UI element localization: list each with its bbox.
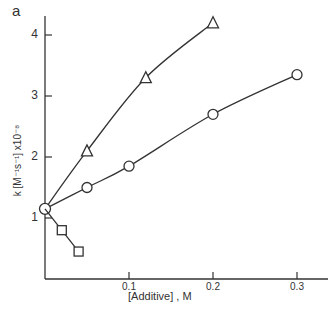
circle-marker — [124, 161, 134, 171]
series-triangles — [45, 17, 219, 209]
series-line — [45, 23, 213, 209]
circle-marker — [292, 70, 302, 80]
chart-canvas — [0, 0, 336, 316]
x-tick-label: 0.3 — [282, 281, 312, 292]
circle-marker — [82, 183, 92, 193]
panel-label: a — [12, 2, 20, 19]
y-axis-label: k [M⁻¹s⁻¹] x10⁻⁸ — [12, 116, 23, 206]
series-squares — [45, 209, 83, 256]
series-circles — [40, 70, 303, 215]
x-axis-label: [Additive] , M — [128, 290, 192, 302]
circle-marker — [208, 109, 218, 119]
y-tick-label: 3 — [24, 88, 38, 102]
x-tick-label: 0.2 — [198, 281, 228, 292]
square-marker — [74, 247, 83, 256]
triangle-marker — [208, 17, 219, 28]
square-marker — [57, 226, 66, 235]
data-series — [40, 17, 303, 256]
y-tick-label: 1 — [24, 210, 38, 224]
y-tick-label: 2 — [24, 149, 38, 163]
y-tick-label: 4 — [24, 27, 38, 41]
